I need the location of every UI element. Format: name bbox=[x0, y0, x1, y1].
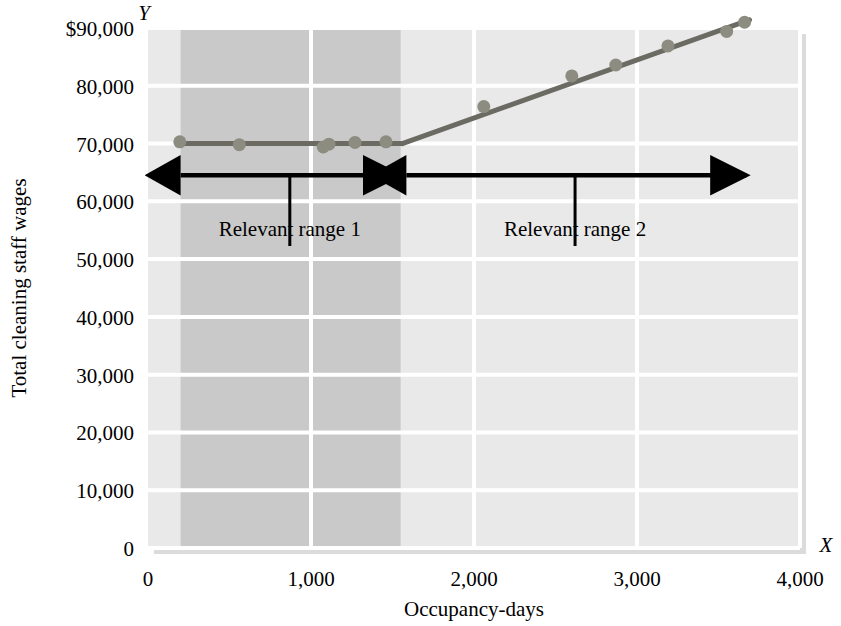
y-tick-label: 40,000 bbox=[76, 306, 134, 330]
y-tick-label: 0 bbox=[124, 537, 135, 561]
y-axis-letter: Y bbox=[138, 1, 152, 25]
x-tick-label: 0 bbox=[143, 567, 154, 591]
x-axis-letter: X bbox=[819, 533, 834, 557]
data-point-marker bbox=[379, 135, 392, 148]
data-point-marker bbox=[738, 16, 751, 29]
data-point-marker bbox=[720, 25, 733, 38]
x-tick-label: 2,000 bbox=[450, 567, 497, 591]
x-tick-label: 4,000 bbox=[776, 567, 823, 591]
data-point-marker bbox=[477, 100, 490, 113]
chart-canvas: Relevant range 1Relevant range 2010,0002… bbox=[0, 0, 841, 626]
data-point-marker bbox=[565, 69, 578, 82]
y-tick-label: 30,000 bbox=[76, 364, 134, 388]
y-axis-title: Total cleaning staff wages bbox=[7, 178, 31, 397]
y-tick-label: 20,000 bbox=[76, 421, 134, 445]
y-tick-label: 70,000 bbox=[76, 133, 134, 157]
range-label-relevant-range-2: Relevant range 2 bbox=[504, 217, 646, 241]
data-point-marker bbox=[661, 39, 674, 52]
y-tick-label: 10,000 bbox=[76, 479, 134, 503]
range-label-relevant-range-1: Relevant range 1 bbox=[219, 217, 361, 241]
y-tick-label: 50,000 bbox=[76, 248, 134, 272]
data-point-marker bbox=[609, 58, 622, 71]
y-tick-label: $90,000 bbox=[66, 17, 134, 41]
data-point-marker bbox=[349, 136, 362, 149]
data-point-marker bbox=[173, 135, 186, 148]
relevant-range-1-band bbox=[181, 28, 401, 548]
y-tick-label: 80,000 bbox=[76, 75, 134, 99]
data-point-marker bbox=[233, 138, 246, 151]
x-tick-label: 3,000 bbox=[613, 567, 660, 591]
y-tick-label: 60,000 bbox=[76, 190, 134, 214]
x-axis-title: Occupancy-days bbox=[404, 597, 544, 621]
data-point-marker bbox=[322, 138, 335, 151]
x-tick-label: 1,000 bbox=[287, 567, 334, 591]
chart-figure: Relevant range 1Relevant range 2010,0002… bbox=[0, 0, 841, 626]
